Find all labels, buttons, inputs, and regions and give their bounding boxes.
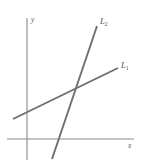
line-label-L2: L2 bbox=[99, 16, 108, 27]
graph-canvas: y x L1 L2 bbox=[0, 0, 144, 168]
x-axis-label: x bbox=[127, 141, 132, 150]
line-label-L1: L1 bbox=[120, 60, 129, 71]
line-label-L2-sub: 2 bbox=[105, 21, 108, 27]
line-L1 bbox=[13, 68, 118, 119]
y-axis-label: y bbox=[30, 15, 35, 24]
line-graph-figure: y x L1 L2 bbox=[0, 0, 144, 168]
line-label-L1-sub: 1 bbox=[126, 65, 129, 71]
